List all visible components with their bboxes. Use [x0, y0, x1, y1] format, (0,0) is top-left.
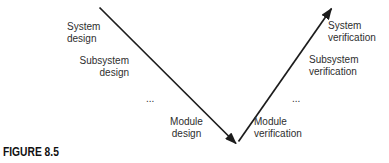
label-system-design: System design — [67, 21, 100, 46]
figure-caption: FIGURE 8.5 — [3, 145, 59, 158]
label-subsystem-verification: Subsystem verification — [309, 54, 358, 79]
label-module-design: Module design — [169, 116, 204, 141]
label-system-verification: System verification — [328, 20, 376, 45]
label-module-verification: Module verification — [254, 116, 302, 141]
ellipsis-design-branch: ... — [146, 93, 154, 105]
ellipsis-verification-branch: ... — [292, 93, 300, 105]
v-model-figure: System design Subsystem design ... Modul… — [0, 0, 389, 163]
label-subsystem-design: Subsystem design — [80, 55, 129, 80]
